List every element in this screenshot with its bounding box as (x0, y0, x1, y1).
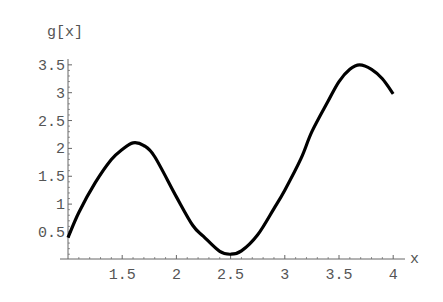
y-axis-label: g[x] (47, 24, 83, 41)
y-tick-label: 0.5 (38, 225, 65, 242)
x-tick-label: 2 (172, 267, 181, 284)
data-series (68, 65, 393, 254)
x-axis: 1.522.533.54 (60, 255, 405, 284)
y-tick-label: 2 (56, 141, 65, 158)
y-tick-label: 1 (56, 197, 65, 214)
x-tick-label: 4 (389, 267, 398, 284)
y-tick-label: 1.5 (38, 169, 65, 186)
y-axis: 0.511.522.533.5 (38, 58, 72, 259)
x-tick-label: 1.5 (109, 267, 136, 284)
x-tick-label: 3 (280, 267, 289, 284)
line-chart: 0.511.522.533.5 1.522.533.54 g[x] x (0, 0, 443, 302)
x-axis-label: x (410, 251, 419, 268)
y-tick-label: 3.5 (38, 58, 65, 75)
x-tick-label: 2.5 (217, 267, 244, 284)
x-tick-label: 3.5 (325, 267, 352, 284)
series-line (68, 65, 393, 254)
y-tick-label: 3 (56, 86, 65, 103)
y-tick-label: 2.5 (38, 114, 65, 131)
